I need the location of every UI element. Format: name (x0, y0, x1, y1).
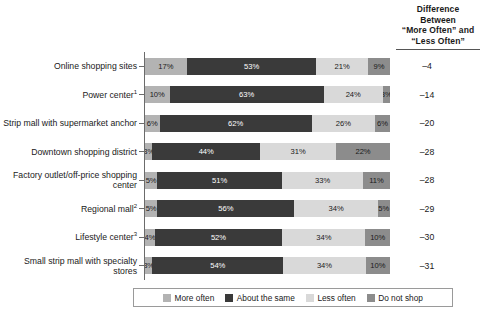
bar-segment-value: 10% (150, 90, 165, 99)
table-row: Lifestyle center34%52%34%10%–30 (0, 223, 482, 252)
bar-segment-value: 5% (378, 204, 389, 213)
bar-segment-more: 5% (145, 172, 157, 189)
bar-segment-value: 6% (147, 119, 158, 128)
legend-item-noshop[interactable]: Do not shop (367, 293, 423, 303)
bar-segment-more: 5% (145, 200, 157, 217)
bar-segment-noshop: 22% (336, 143, 390, 160)
bar-segment-less: 33% (282, 172, 363, 189)
axis-tick (139, 265, 144, 266)
bar-segment-noshop: 3% (383, 86, 390, 103)
bar-segment-value: 3% (145, 147, 152, 156)
bar-segment-value: 9% (373, 62, 384, 71)
bar-rows: Online shopping sites17%53%21%9%–4Power … (0, 52, 482, 280)
bar-segment-more: 6% (145, 115, 160, 132)
category-label-4: Factory outlet/off-price shopping center (0, 170, 141, 190)
difference-value-1: –14 (398, 90, 456, 100)
difference-value-6: –30 (398, 232, 456, 242)
axis-tick (139, 180, 144, 181)
bar-segment-same: 52% (155, 229, 282, 246)
axis-tick (139, 123, 144, 124)
category-label-1: Power center1 (0, 90, 141, 100)
difference-value-3: –28 (398, 147, 456, 157)
axis-tick (139, 66, 144, 67)
bar-segment-more: 4% (145, 229, 155, 246)
bar-segment-noshop: 11% (363, 172, 390, 189)
table-row: Downtown shopping district3%44%31%22%–28 (0, 138, 482, 167)
axis-tick (139, 94, 144, 95)
bar-segment-value: 6% (377, 119, 388, 128)
table-row: Factory outlet/off-price shopping center… (0, 166, 482, 195)
difference-header-line-3: “More Often” and (396, 25, 480, 36)
bar-segment-value: 24% (346, 90, 361, 99)
axis-tick (139, 151, 144, 152)
bar-segment-same: 53% (187, 58, 317, 75)
bar-segment-value: 34% (317, 261, 332, 270)
bar-segment-noshop: 9% (368, 58, 390, 75)
legend-swatch-icon (163, 294, 171, 302)
bar-segment-value: 10% (370, 233, 385, 242)
bar-segment-value: 52% (211, 233, 226, 242)
bar-segment-value: 22% (355, 147, 370, 156)
bar-segment-same: 54% (152, 257, 283, 274)
stacked-bar: 6%62%26%6% (145, 115, 390, 132)
bar-segment-value: 51% (212, 176, 227, 185)
bar-segment-noshop: 6% (375, 115, 390, 132)
bar-segment-value: 26% (336, 119, 351, 128)
category-label-0: Online shopping sites (0, 61, 141, 71)
bar-segment-less: 34% (283, 257, 365, 274)
difference-column-header: Difference Between “More Often” and “Les… (396, 4, 480, 50)
bar-segment-value: 11% (369, 176, 384, 185)
bar-segment-value: 21% (335, 62, 350, 71)
legend-item-same[interactable]: About the same (225, 293, 295, 303)
bar-segment-value: 17% (158, 62, 173, 71)
plot-area: Online shopping sites17%53%21%9%–4Power … (0, 52, 482, 280)
legend-item-less[interactable]: Less often (306, 293, 356, 303)
table-row: Strip mall with supermarket anchor6%62%2… (0, 109, 482, 138)
stacked-bar: 17%53%21%9% (145, 58, 390, 75)
stacked-bar: 5%56%34%5% (145, 200, 390, 217)
bar-segment-value: 34% (316, 233, 331, 242)
category-label-7: Small strip mall with specialty stores (0, 256, 141, 276)
bar-segment-value: 33% (315, 176, 330, 185)
difference-header-rule (396, 49, 480, 50)
table-row: Regional mall25%56%34%5%–29 (0, 195, 482, 224)
bar-segment-more: 10% (145, 86, 170, 103)
bar-segment-value: 62% (228, 119, 243, 128)
category-label-6: Lifestyle center3 (0, 232, 141, 242)
bar-segment-noshop: 5% (378, 200, 390, 217)
bar-segment-value: 3% (383, 90, 390, 99)
footnote-marker: 1 (134, 89, 137, 95)
bar-segment-value: 5% (146, 204, 157, 213)
difference-value-7: –31 (398, 261, 456, 271)
bar-segment-less: 34% (282, 229, 365, 246)
legend-swatch-icon (367, 294, 375, 302)
bar-segment-value: 5% (146, 176, 157, 185)
legend-swatch-icon (225, 294, 233, 302)
bar-segment-same: 44% (152, 143, 260, 160)
stacked-bar: 4%52%34%10% (145, 229, 390, 246)
difference-header-line-1: Difference (396, 4, 480, 15)
footnote-marker: 2 (134, 203, 137, 209)
table-row: Online shopping sites17%53%21%9%–4 (0, 52, 482, 81)
bar-segment-same: 56% (157, 200, 294, 217)
legend-item-more[interactable]: More often (163, 293, 214, 303)
bar-segment-value: 34% (328, 204, 343, 213)
bar-segment-value: 53% (244, 62, 259, 71)
bar-segment-value: 4% (145, 233, 155, 242)
bar-segment-less: 24% (324, 86, 383, 103)
legend-label: Do not shop (378, 293, 423, 303)
difference-value-2: –20 (398, 118, 456, 128)
difference-value-4: –28 (398, 175, 456, 185)
stacked-bar-chart: Difference Between “More Often” and “Les… (0, 0, 482, 316)
stacked-bar: 3%54%34%10% (145, 257, 390, 274)
category-label-5: Regional mall2 (0, 204, 141, 214)
difference-header-line-4: “Less Often” (396, 36, 480, 47)
bar-segment-value: 54% (210, 261, 225, 270)
stacked-bar: 3%44%31%22% (145, 143, 390, 160)
bar-segment-noshop: 10% (366, 257, 390, 274)
legend-label: Less often (317, 293, 355, 303)
bar-segment-more: 3% (145, 143, 152, 160)
bar-segment-value: 31% (291, 147, 306, 156)
bar-segment-same: 62% (160, 115, 312, 132)
table-row: Small strip mall with specialty stores3%… (0, 252, 482, 281)
